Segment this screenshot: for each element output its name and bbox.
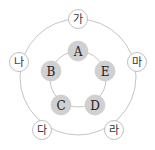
inner-node-a: A <box>68 41 88 61</box>
circular-arrangement-diagram: 가 마 라 다 나 A E D C B <box>0 0 155 150</box>
outer-node-da: 다 <box>33 121 52 140</box>
inner-node-c: C <box>51 95 71 115</box>
outer-node-label: 가 <box>73 13 83 26</box>
outer-node-ga: 가 <box>69 10 88 29</box>
outer-ring <box>20 19 136 135</box>
outer-node-label: 라 <box>109 124 119 137</box>
inner-node-e: E <box>95 61 115 81</box>
outer-node-ma: 마 <box>128 53 147 72</box>
inner-node-label: E <box>101 65 110 79</box>
outer-node-label: 마 <box>132 56 142 69</box>
outer-node-label: 나 <box>14 56 24 69</box>
inner-node-label: B <box>47 65 56 79</box>
outer-node-ra: 라 <box>105 121 124 140</box>
inner-node-label: A <box>73 45 83 59</box>
outer-node-na: 나 <box>10 53 29 72</box>
inner-node-d: D <box>85 95 105 115</box>
inner-node-label: D <box>90 99 100 113</box>
inner-node-label: C <box>56 99 65 113</box>
outer-node-label: 다 <box>37 124 47 137</box>
inner-node-b: B <box>41 61 61 81</box>
